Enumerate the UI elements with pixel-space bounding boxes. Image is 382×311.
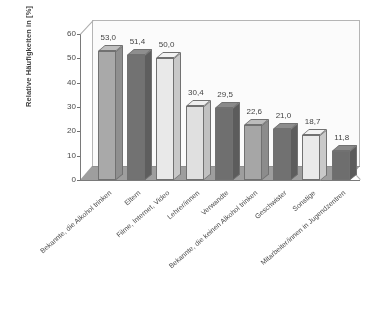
bar-side: [262, 119, 269, 180]
bar-face: [156, 58, 174, 180]
bar-value-label: 21,0: [276, 112, 292, 120]
bar-side: [116, 45, 123, 180]
bar-side: [320, 129, 327, 180]
bar-value-label: 18,7: [305, 118, 321, 126]
bar-face: [215, 108, 233, 180]
bar-face: [332, 151, 350, 180]
bar: 18,7: [302, 135, 320, 181]
bar-value-label: 53,0: [100, 34, 116, 42]
bar-face: [273, 129, 291, 180]
bar: 50,0: [156, 58, 174, 180]
bar-face: [244, 125, 262, 180]
bar-value-label: 29,5: [217, 91, 233, 99]
bar-side: [350, 145, 357, 180]
bar-chart: Relative Häufigkeiten in [%] 01020304050…: [0, 0, 382, 311]
bar: 51,4: [127, 55, 145, 180]
bar-side: [145, 49, 152, 180]
bar: 21,0: [273, 129, 291, 180]
bar-series: 53,051,450,030,429,522,621,018,711,8: [0, 0, 382, 311]
bar-side: [291, 123, 298, 180]
bar-side: [233, 102, 240, 180]
bar-face: [302, 135, 320, 181]
bar-value-label: 11,8: [334, 134, 349, 142]
bar: 53,0: [98, 51, 116, 180]
bar-value-label: 50,0: [159, 41, 175, 49]
bar-face: [127, 55, 145, 180]
bar-side: [174, 52, 181, 180]
bar: 29,5: [215, 108, 233, 180]
bar-value-label: 51,4: [130, 38, 146, 46]
bar-face: [186, 106, 204, 180]
bar-side: [204, 100, 211, 180]
bar: 11,8: [332, 151, 350, 180]
bar-value-label: 30,4: [188, 89, 204, 97]
bar: 30,4: [186, 106, 204, 180]
bar-value-label: 22,6: [246, 108, 262, 116]
bar: 22,6: [244, 125, 262, 180]
bar-face: [98, 51, 116, 180]
